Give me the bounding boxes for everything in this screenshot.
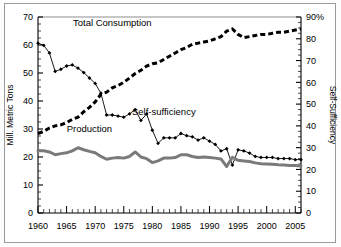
x-tick-label: 1985 (171, 221, 191, 231)
x-tick-label: 1975 (114, 221, 134, 231)
data-point-marker (271, 156, 275, 160)
data-point-marker (236, 148, 240, 152)
annotation-self-sufficiency: Self-sufficiency (132, 106, 196, 117)
data-point-marker (185, 134, 189, 138)
data-point-marker (242, 149, 246, 153)
y-tick-label: 40 (23, 96, 33, 106)
data-point-marker (248, 151, 252, 155)
data-point-marker (53, 70, 57, 74)
data-point-marker (276, 157, 280, 161)
data-point-marker (208, 139, 212, 143)
y-tick-label: 30 (23, 124, 33, 134)
data-point-marker (150, 128, 154, 132)
y2-tick-label: 30 (306, 143, 316, 153)
x-tick-label: 1980 (142, 221, 162, 231)
y-tick-label: 50 (23, 68, 33, 78)
x-tick-label: 2000 (257, 221, 277, 231)
x-tick-label: 1965 (57, 221, 77, 231)
annotation-total-consumption: Total Consumption (73, 17, 152, 28)
y2-tick-label: 90% (306, 12, 324, 22)
y-axis-title: Mill. Metric Tons (5, 85, 15, 146)
data-point-marker (110, 113, 114, 117)
data-point-marker (253, 154, 257, 158)
data-point-marker (116, 114, 120, 118)
x-tick-label: 1990 (200, 221, 220, 231)
data-point-marker (168, 136, 172, 140)
y2-tick-label: 10 (306, 186, 316, 196)
data-point-marker (122, 115, 126, 119)
data-point-marker (70, 63, 74, 67)
data-point-marker (196, 138, 200, 142)
y-tick-label: 70 (23, 12, 33, 22)
y-tick-label: 60 (23, 40, 33, 50)
data-point-marker (225, 147, 229, 151)
y-tick-label: 20 (23, 152, 33, 162)
y2-tick-label: 70 (306, 56, 316, 66)
y2-tick-label: 80 (306, 34, 316, 44)
data-point-marker (65, 64, 69, 68)
chart-canvas: 0102030405060700102030405060708090%19601… (0, 0, 341, 247)
data-point-marker (293, 158, 297, 162)
y2-tick-label: 20 (306, 165, 316, 175)
y2-tick-label: 60 (306, 78, 316, 88)
series-line (38, 29, 301, 134)
y-tick-label: 0 (28, 208, 33, 218)
chart-figure: 0102030405060700102030405060708090%19601… (0, 0, 341, 247)
x-tick-label: 1970 (85, 221, 105, 231)
data-point-marker (190, 135, 194, 139)
x-tick-label: 2005 (285, 221, 305, 231)
y2-tick-label: 0 (306, 208, 311, 218)
data-point-marker (202, 136, 206, 140)
data-point-marker (265, 156, 269, 160)
series-total-consumption (38, 29, 301, 134)
y2-tick-label: 40 (306, 121, 316, 131)
data-point-marker (59, 67, 63, 71)
data-point-marker (282, 157, 286, 161)
data-point-marker (105, 113, 109, 117)
y2-tick-label: 50 (306, 99, 316, 109)
y-tick-label: 10 (23, 180, 33, 190)
y2-axis-title: Self-Sufficiency (328, 86, 338, 145)
annotation-production: Production (67, 123, 112, 134)
x-tick-label: 1960 (28, 221, 48, 231)
x-tick-label: 1995 (228, 221, 248, 231)
data-point-marker (230, 163, 234, 167)
data-point-marker (288, 157, 292, 161)
data-point-marker (259, 156, 263, 160)
